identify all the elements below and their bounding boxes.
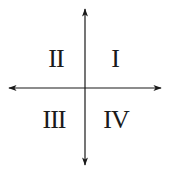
quadrant-diagram: II I III IV [0,0,171,181]
quadrant-ii-label: II [48,46,63,72]
axes [0,0,171,181]
quadrant-iv-label: IV [103,107,128,133]
quadrant-iii-label: III [43,107,66,133]
quadrant-i-label: I [111,46,119,72]
